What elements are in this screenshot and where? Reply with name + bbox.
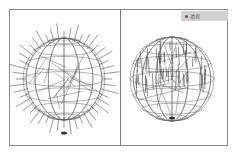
left-viewport [10, 10, 120, 145]
spiked-sphere-icon [10, 10, 120, 147]
view-label-badge[interactable]: 透视 [181, 11, 228, 21]
right-viewport: 透视 [121, 10, 228, 145]
figure-frame: 透视 [9, 9, 228, 146]
dot-icon [185, 15, 188, 18]
hairy-sphere-icon [121, 10, 228, 147]
view-label: 透视 [190, 14, 200, 19]
